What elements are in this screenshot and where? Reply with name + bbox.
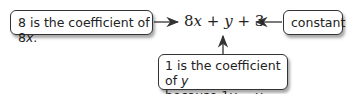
callout-constant: constant bbox=[283, 10, 343, 35]
var-y: y bbox=[229, 88, 236, 94]
callout-text: constant bbox=[291, 15, 345, 30]
callout-coefficient-8x: 8 is the coefficient of 8x. bbox=[10, 10, 153, 35]
callout-coefficient-y: 1 is the coefficient of y because 1y = y… bbox=[158, 54, 288, 90]
text: because 1 bbox=[165, 88, 229, 94]
plus-2: + bbox=[233, 12, 255, 30]
punct: . bbox=[262, 88, 266, 94]
callout-line-1: 1 is the coefficient of y bbox=[165, 58, 287, 88]
term-y: y bbox=[224, 12, 232, 30]
term-8-coef: 8 bbox=[184, 12, 194, 30]
callout-line-2: because 1y = y. bbox=[165, 88, 287, 94]
plus-1: + bbox=[202, 12, 224, 30]
expression: 8x + y + 3 bbox=[184, 10, 264, 32]
callout-punct: . bbox=[33, 30, 37, 45]
equals: = bbox=[237, 88, 255, 94]
var-y: y bbox=[181, 73, 188, 88]
term-x: x bbox=[194, 12, 202, 30]
term-constant-3: 3 bbox=[255, 12, 265, 30]
